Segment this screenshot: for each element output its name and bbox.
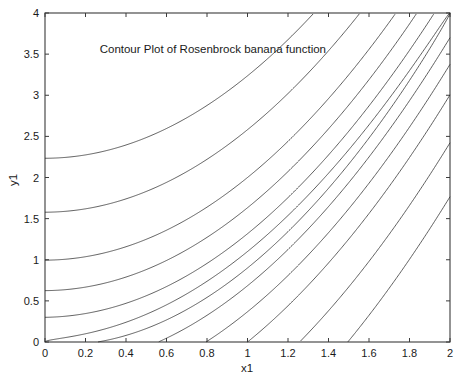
y-tick-label: 3.5 xyxy=(24,48,39,60)
x-tick-label: 0.4 xyxy=(118,347,133,359)
x-tick-label: 2 xyxy=(447,347,453,359)
y-tick-label: 1 xyxy=(33,254,39,266)
plot-title: Contour Plot of Rosenbrock banana functi… xyxy=(100,43,326,55)
contour-level-1 xyxy=(98,13,450,342)
y-tick-label: 0 xyxy=(33,336,39,348)
x-tick-label: 0 xyxy=(42,347,48,359)
y-axis-tick-labels: 00.511.522.533.54 xyxy=(24,7,39,348)
x-axis-label: x1 xyxy=(241,362,253,374)
y-tick-label: 2.5 xyxy=(24,130,39,142)
y-tick-label: 1.5 xyxy=(24,213,39,225)
contour-plot: 00.20.40.60.811.21.41.61.82 00.511.522.5… xyxy=(0,0,467,387)
y-axis-label: y1 xyxy=(7,174,19,186)
x-tick-label: 1 xyxy=(244,347,250,359)
contour-level-250 xyxy=(301,143,450,341)
contour-level-500 xyxy=(45,14,313,158)
x-tick-label: 1.2 xyxy=(280,347,295,359)
contour-level-40 xyxy=(206,64,450,342)
x-axis-tick-labels: 00.20.40.60.811.21.41.61.82 xyxy=(42,347,453,359)
x-tick-label: 0.6 xyxy=(159,347,174,359)
x-tick-label: 0.8 xyxy=(199,347,214,359)
y-tick-label: 4 xyxy=(33,7,39,19)
x-tick-label: 1.4 xyxy=(321,347,336,359)
x-tick-label: 0.2 xyxy=(78,347,93,359)
figure-canvas: 00.20.40.60.811.21.41.61.82 00.511.522.5… xyxy=(0,0,467,387)
y-tick-label: 0.5 xyxy=(24,295,39,307)
contour-level-100 xyxy=(248,95,451,342)
y-tick-label: 2 xyxy=(33,172,39,184)
x-tick-label: 1.8 xyxy=(402,347,417,359)
x-tick-label: 1.6 xyxy=(361,347,376,359)
contour-level-10 xyxy=(45,14,434,317)
contour-level-10 xyxy=(159,38,450,342)
y-tick-label: 3 xyxy=(33,89,39,101)
contour-curves xyxy=(45,13,450,342)
